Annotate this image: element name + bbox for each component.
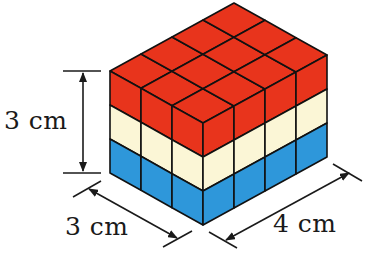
width-extension-left [209, 232, 237, 248]
depth-label: 3 cm [65, 214, 129, 239]
cuboid-figure: 3 cm 3 cm 4 cm [0, 0, 369, 258]
height-label: 3 cm [4, 108, 68, 133]
cube-faces [110, 3, 327, 225]
depth-extension-left [73, 181, 101, 197]
width-label: 4 cm [273, 211, 337, 236]
